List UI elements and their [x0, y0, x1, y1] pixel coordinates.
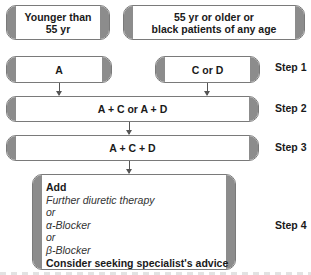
population-younger-line2: 55 yr — [46, 23, 71, 35]
arrow-step2-to-step3 — [129, 122, 130, 134]
step1-box-a: A — [6, 56, 112, 83]
population-label-younger: Younger than 55 yr — [25, 11, 92, 35]
arrow-cd-to-step2 — [207, 83, 208, 95]
step1-box-c-or-d: C or D — [155, 56, 260, 83]
step2-box-label: A + C or A + D — [98, 103, 167, 115]
arrow-a-to-step2 — [59, 83, 60, 95]
step4-line-or-1: or — [46, 206, 235, 219]
step3-box-label: A + C + D — [109, 142, 155, 154]
step4-line-alpha-blocker: α-Blocker — [46, 219, 235, 232]
population-younger-line1: Younger than — [25, 11, 92, 23]
population-box-younger: Younger than 55 yr — [6, 5, 110, 40]
population-label-older: 55 yr or older or black patients of any … — [152, 11, 277, 35]
population-older-line2: black patients of any age — [152, 23, 277, 35]
step3-box: A + C + D — [6, 135, 259, 161]
step4-line-or-2: or — [46, 231, 235, 244]
step3-label: Step 3 — [275, 141, 307, 153]
step4-box: Add Further diuretic therapy or α-Blocke… — [32, 174, 236, 270]
arrow-step3-to-step4 — [129, 161, 130, 173]
population-box-older: 55 yr or older or black patients of any … — [123, 5, 305, 40]
step4-line-diuretic: Further diuretic therapy — [46, 194, 235, 207]
step4-line-specialist: Consider seeking specialist's advice — [46, 257, 235, 270]
step1-box-a-label: A — [55, 64, 63, 76]
step4-line-beta-blocker: β-Blocker — [46, 244, 235, 257]
step4-line-add: Add — [46, 181, 235, 194]
population-older-line1: 55 yr or older or — [174, 11, 254, 23]
step1-box-c-or-d-label: C or D — [192, 64, 224, 76]
step4-label: Step 4 — [275, 219, 307, 231]
step2-label: Step 2 — [275, 102, 307, 114]
step1-label: Step 1 — [275, 61, 307, 73]
step2-box: A + C or A + D — [6, 96, 259, 122]
